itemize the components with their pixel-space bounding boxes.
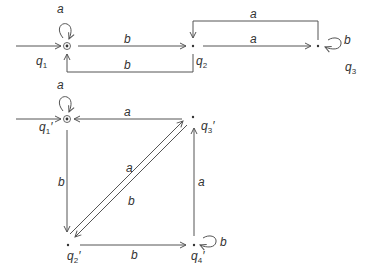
label-q3-loop: b: [344, 34, 351, 46]
state-q3: [317, 45, 319, 47]
label-q2-q3: a: [250, 33, 257, 45]
state-label-q1p: q1′: [39, 121, 52, 136]
label-q1-loop: a: [57, 3, 64, 15]
label-q3p-q1p: a: [124, 106, 131, 118]
label-diag-a: a: [126, 162, 133, 174]
label-q2p-q4p: b: [131, 249, 138, 261]
state-label-q3p: q3′: [201, 120, 214, 135]
state-q2p: [67, 244, 69, 246]
state-label-q2p: q2′: [67, 250, 80, 265]
loop-q4p: [200, 236, 216, 247]
loop-q1: [59, 24, 71, 39]
state-label-q2: q2: [196, 55, 207, 70]
loop-q1p: [59, 97, 71, 112]
state-q4p: [193, 244, 195, 246]
edge-q2p-q3p: [70, 121, 183, 234]
label-q1p-loop: a: [57, 79, 64, 91]
state-q3p: [192, 116, 194, 118]
edge-q3p-q2p: [75, 125, 187, 237]
label-q1p-q2p: b: [58, 176, 65, 188]
diagram-canvas: [0, 0, 371, 279]
label-q4p-loop: b: [220, 236, 227, 248]
label-diag-b: b: [128, 195, 135, 207]
state-q1p: [66, 118, 69, 121]
state-label-q1: q1: [36, 55, 47, 70]
state-q1: [66, 45, 69, 48]
state-q2: [192, 45, 194, 47]
state-label-q4p: q4′: [191, 250, 204, 265]
label-q2-q1: b: [124, 59, 131, 71]
label-q1-q2: b: [124, 33, 131, 45]
label-q4p-q3p: a: [198, 176, 205, 188]
label-q3-q2: a: [250, 8, 257, 20]
loop-q3: [325, 38, 341, 49]
state-label-q3: q3: [345, 61, 356, 76]
